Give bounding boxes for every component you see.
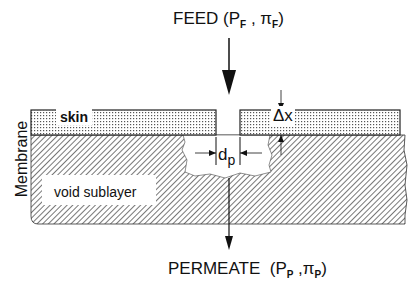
void-sublayer-label: void sublayer: [46, 180, 145, 204]
feed-arrow: [222, 70, 236, 95]
feed-label: FEED (PF , πF): [173, 9, 284, 30]
skin-label: skin: [56, 109, 92, 125]
thickness-label: Δx: [271, 106, 295, 126]
pore-diameter-label: dp: [218, 145, 235, 168]
membrane-diagram: [0, 0, 417, 292]
permeate-label: PERMEATE (PP ,πP): [168, 259, 327, 280]
permeate-arrow: [225, 236, 233, 250]
membrane-label: Membrane: [13, 119, 31, 199]
skin-layer-right: [240, 110, 400, 135]
